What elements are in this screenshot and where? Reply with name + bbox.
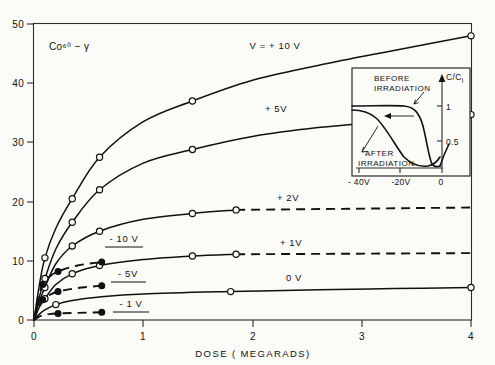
inset-x-tick-label-zero: 0 — [438, 177, 443, 187]
curve-dashed-extension — [236, 208, 471, 210]
data-point-marker — [69, 243, 75, 249]
data-point-marker — [69, 271, 75, 277]
data-point-marker — [233, 207, 239, 213]
inset-label-before-line1: BEFORE — [374, 74, 410, 83]
inset-label-after-line2: IRRADIATION — [358, 159, 414, 168]
data-point-marker — [189, 253, 195, 259]
chart-canvas: 0 10 20 30 40 50 0 1 2 3 4 DOSE ( MEGARA… — [0, 0, 495, 365]
figure-root: 0 10 20 30 40 50 0 1 2 3 4 DOSE ( MEGARA… — [0, 0, 495, 365]
data-point-marker — [189, 210, 195, 216]
sample-annotation: Co⁶⁰ − γ — [49, 41, 90, 52]
data-point-marker — [55, 311, 61, 317]
data-point-marker — [96, 154, 102, 160]
inset-y-axis-title: C/Ci — [446, 72, 464, 84]
data-point-marker — [99, 259, 105, 265]
x-tick-label-4: 4 — [468, 331, 474, 342]
curve-line — [34, 254, 236, 320]
sample-annotation-text: Co⁶⁰ − γ — [49, 41, 90, 52]
x-axis: 0 1 2 3 4 DOSE ( MEGARADS) — [31, 320, 474, 359]
curve-label-vneg10: - 10 V — [110, 233, 139, 244]
curve-label-vneg1: - 1 V — [119, 298, 142, 309]
data-point-marker — [96, 187, 102, 193]
inset-y-axis-title-sub: i — [462, 77, 464, 84]
data-point-marker — [40, 297, 46, 303]
data-point-marker — [99, 309, 105, 315]
data-point-marker — [189, 98, 195, 104]
x-axis-ticks — [34, 320, 471, 327]
curve-line — [34, 312, 102, 320]
curve-dashed-extension — [236, 253, 471, 254]
curve-label-v5: + 5V — [265, 103, 287, 114]
data-point-marker — [55, 289, 61, 295]
inset-x-tick-label-minus20: -20V — [391, 177, 410, 187]
data-point-marker — [53, 302, 59, 308]
x-axis-title: DOSE ( MEGARADS) — [195, 348, 310, 359]
y-tick-label-50: 50 — [12, 19, 24, 30]
x-tick-label-1: 1 — [140, 331, 146, 342]
curve-label-v1: + 1V — [280, 237, 302, 248]
curve-line — [34, 287, 471, 320]
inset-y-tick-label-1: 1 — [446, 102, 451, 112]
data-point-marker — [189, 146, 195, 152]
data-point-marker — [228, 288, 234, 294]
inset-y-axis-title-main: C/C — [446, 72, 462, 82]
data-point-marker — [69, 219, 75, 225]
x-tick-label-2: 2 — [250, 331, 256, 342]
y-tick-label-10: 10 — [12, 256, 24, 267]
data-point-marker — [468, 33, 474, 39]
data-point-marker — [42, 255, 48, 261]
data-point-marker — [99, 283, 105, 289]
y-tick-label-40: 40 — [12, 78, 24, 89]
y-tick-label-30: 30 — [12, 137, 24, 148]
inset-label-after-line1: AFTER — [365, 149, 394, 158]
data-point-marker — [55, 269, 61, 275]
y-tick-label-20: 20 — [12, 197, 24, 208]
curve-label-v10: V = + 10 V — [250, 40, 301, 51]
x-tick-label-3: 3 — [359, 331, 365, 342]
inset-label-before-line2: IRRADIATION — [374, 84, 430, 93]
curve-label-v2: + 2V — [277, 192, 299, 203]
y-axis: 0 10 20 30 40 50 — [12, 19, 34, 326]
data-point-marker — [233, 251, 239, 257]
data-point-marker — [468, 284, 474, 290]
curve-labels: V = + 10 V + 5V + 2V + 1V 0 V - 10 V - 5… — [105, 40, 302, 312]
main-chart-svg: 0 10 20 30 40 50 0 1 2 3 4 DOSE ( MEGARA… — [0, 0, 495, 365]
data-point-marker — [96, 228, 102, 234]
data-point-marker — [69, 196, 75, 202]
y-tick-label-0: 0 — [18, 315, 24, 326]
curve-label-vneg5: - 5V — [118, 268, 138, 279]
inset-x-tick-label-minus40: - 40V — [348, 177, 370, 187]
curve-label-v0: 0 V — [286, 272, 302, 283]
data-point-marker — [40, 282, 46, 288]
x-tick-label-0: 0 — [31, 331, 37, 342]
inset-cv-plot: 1 0.5 C/Ci - 40V -20V 0 BEFORE IRRADI — [348, 68, 470, 187]
